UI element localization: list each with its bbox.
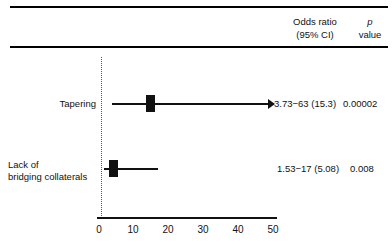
row-label-tapering-line1: Tapering bbox=[0, 98, 96, 110]
confidence-interval-line-row1 bbox=[112, 103, 272, 105]
point-estimate-marker-row2 bbox=[109, 160, 118, 177]
x-axis-tick-30: 30 bbox=[191, 223, 215, 236]
row-label-collaterals-line2: bridging collaterals bbox=[8, 171, 87, 183]
x-axis-tick-20: 20 bbox=[156, 223, 180, 236]
x-axis-tick-0: 0 bbox=[87, 223, 111, 236]
p-value-row2: 0.008 bbox=[350, 163, 374, 175]
row-label-collaterals-line1: Lack of bbox=[8, 159, 87, 171]
point-estimate-marker-row1 bbox=[146, 95, 155, 112]
reference-line bbox=[101, 57, 103, 218]
row-label-tapering: Tapering bbox=[0, 98, 96, 110]
x-axis-line bbox=[97, 217, 277, 219]
p-value-row1: 0.00002 bbox=[343, 98, 377, 110]
x-axis-tick-40: 40 bbox=[226, 223, 250, 236]
x-axis-tick-10: 10 bbox=[121, 223, 145, 236]
odds-ratio-value-row1: 3.73−63 (15.3) bbox=[274, 98, 336, 110]
row-label-bridging-collaterals: Lack of bridging collaterals bbox=[8, 159, 87, 183]
x-axis-tick-50: 50 bbox=[261, 223, 285, 236]
odds-ratio-value-row2: 1.53−17 (5.08) bbox=[277, 163, 339, 175]
forest-plot-figure: Odds ratio (95% CI) p value 0 10 20 30 4… bbox=[0, 0, 392, 241]
plot-area: 0 10 20 30 40 50 bbox=[0, 0, 392, 241]
